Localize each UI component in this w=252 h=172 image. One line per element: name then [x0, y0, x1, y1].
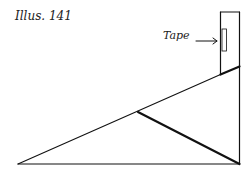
tape-strip	[222, 29, 227, 51]
hypotenuse	[18, 75, 221, 165]
upper-brace	[221, 67, 240, 75]
diagonal-brace	[138, 112, 240, 164]
illustration-diagram	[0, 0, 252, 172]
